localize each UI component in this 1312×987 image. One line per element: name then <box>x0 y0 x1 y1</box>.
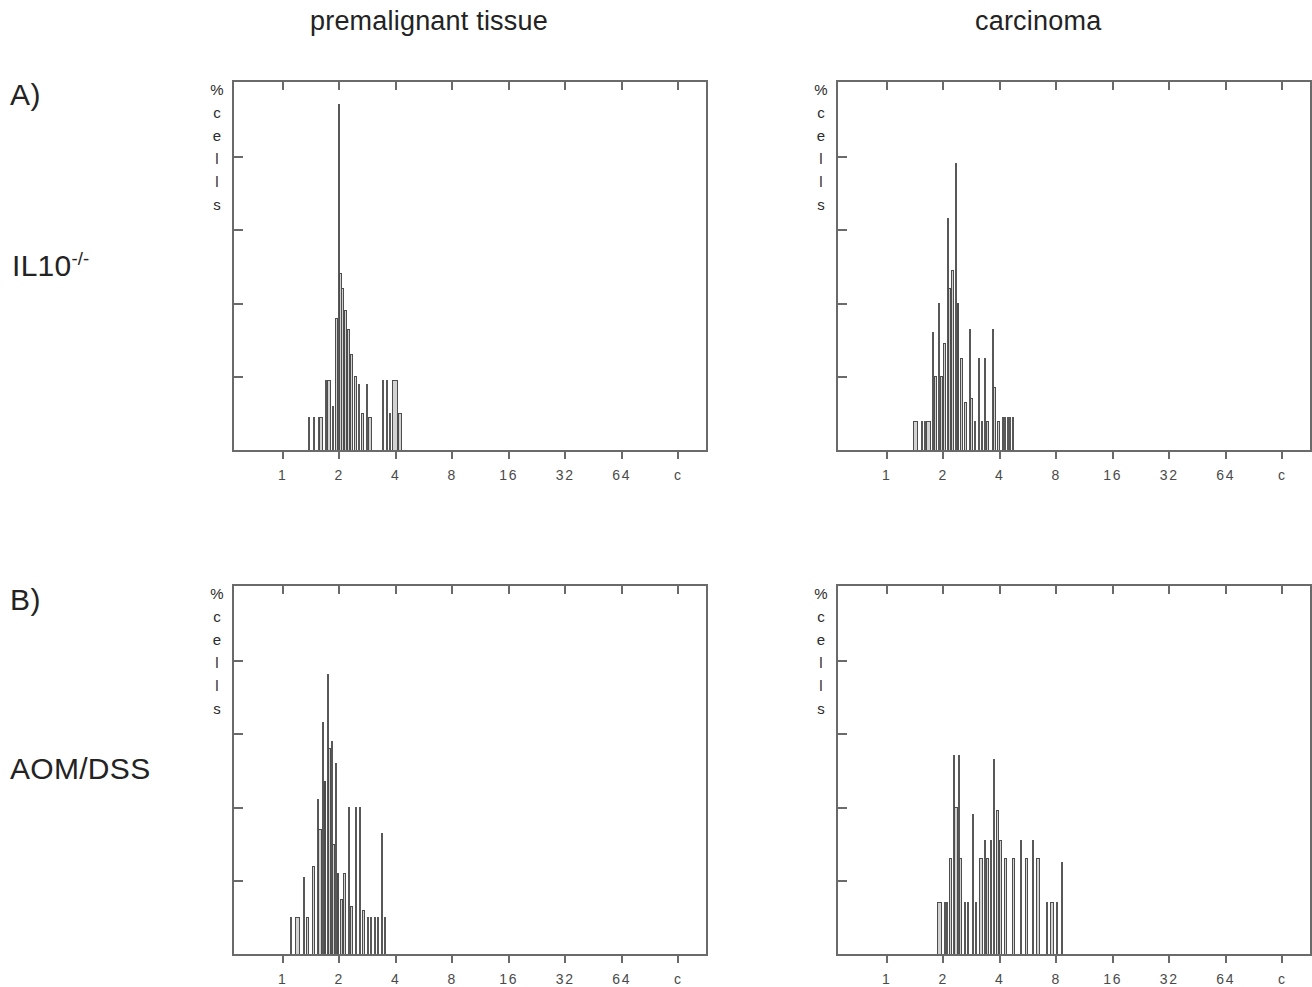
histogram-bar <box>975 902 977 954</box>
x-axis-tick <box>508 450 510 459</box>
histogram-bar <box>944 902 946 954</box>
y-axis-label-char: l <box>819 651 822 674</box>
histogram-bar <box>1009 417 1011 450</box>
row-label-il10-text: IL10 <box>12 249 72 282</box>
histogram-bar <box>926 421 930 450</box>
x-axis-tick-label: 64 <box>612 971 631 987</box>
y-axis-label-char: s <box>213 193 221 216</box>
y-axis-label-char: s <box>817 193 825 216</box>
histogram-bar <box>934 376 937 450</box>
y-axis-label-percent-cells: %cells <box>810 78 832 216</box>
histogram-bar <box>377 917 379 954</box>
histogram-bar <box>964 902 966 954</box>
histogram-bar <box>313 417 315 450</box>
histogram-series <box>838 586 1310 954</box>
x-axis-tick-label: c <box>1278 971 1287 987</box>
y-axis-label-char: s <box>817 697 825 720</box>
panel-letter-a: A) <box>10 78 41 112</box>
x-axis-tick <box>338 450 340 459</box>
x-axis-tick <box>942 450 944 459</box>
histogram-bar <box>389 413 391 450</box>
x-axis-tick <box>1168 954 1170 963</box>
histogram-panel-panel-a-premalignant: 1248163264c <box>232 80 708 452</box>
plot-area <box>838 586 1310 954</box>
x-axis-tick <box>451 450 453 459</box>
row-label-il10: IL10-/- <box>12 248 89 283</box>
histogram-bar <box>949 858 952 954</box>
histogram-bar <box>1012 417 1014 450</box>
histogram-bar <box>319 417 323 450</box>
y-axis-label-char: c <box>213 605 221 628</box>
histogram-bar <box>1046 902 1048 954</box>
x-axis-tick <box>1112 450 1114 459</box>
x-axis-tick-label: 1 <box>278 971 287 987</box>
histogram-bar <box>303 877 305 954</box>
histogram-bar <box>986 421 989 450</box>
x-axis-tick-label: 32 <box>1160 971 1179 987</box>
x-axis-tick <box>621 450 623 459</box>
histogram-bar <box>972 814 974 954</box>
histogram-bar <box>1004 858 1007 954</box>
x-axis-tick-label: 4 <box>995 971 1004 987</box>
plot-area <box>838 82 1310 450</box>
x-axis-tick <box>942 954 944 963</box>
histogram-bar <box>1061 862 1063 954</box>
y-axis-label-char: l <box>215 674 218 697</box>
x-axis-tick-label: 4 <box>391 971 400 987</box>
y-axis-label-char: e <box>817 628 825 651</box>
histogram-bar <box>951 270 954 450</box>
x-axis-tick-label: 8 <box>1052 971 1061 987</box>
histogram-bar <box>974 421 976 450</box>
x-axis-tick <box>1225 954 1227 963</box>
x-axis-tick-label: 8 <box>448 467 457 483</box>
y-axis-label-char: l <box>819 674 822 697</box>
histogram-bar <box>1025 858 1028 954</box>
histogram-bar <box>1050 902 1053 954</box>
histogram-bar <box>921 421 923 450</box>
histogram-bar <box>381 833 383 954</box>
histogram-bar <box>1032 840 1034 954</box>
histogram-bar <box>981 421 983 450</box>
x-axis-tick-label: 16 <box>499 971 518 987</box>
histogram-bar <box>979 858 982 954</box>
y-axis-label-char: l <box>215 170 218 193</box>
histogram-bar <box>367 917 369 954</box>
histogram-panel-panel-a-carcinoma: 1248163264c <box>836 80 1312 452</box>
y-axis-label-char: l <box>215 651 218 674</box>
histogram-bar <box>986 858 989 954</box>
histogram-bar <box>913 421 918 450</box>
x-axis-tick <box>338 954 340 963</box>
x-axis-tick <box>1055 954 1057 963</box>
histogram-series <box>838 82 1310 450</box>
x-axis-tick <box>508 954 510 963</box>
histogram-bar <box>978 358 980 450</box>
histogram-panel-panel-b-premalignant: 1248163264c <box>232 584 708 956</box>
x-axis-tick-label: 16 <box>1103 971 1122 987</box>
x-axis-tick <box>1168 450 1170 459</box>
x-axis-tick <box>282 954 284 963</box>
histogram-bar <box>959 858 962 954</box>
histogram-panel-panel-b-carcinoma: 1248163264c <box>836 584 1312 956</box>
histogram-bar <box>970 398 973 450</box>
histogram-bar <box>382 380 384 450</box>
x-axis-tick <box>395 954 397 963</box>
y-axis-label-char: e <box>213 628 221 651</box>
y-axis-label-char: c <box>817 605 825 628</box>
histogram-bar <box>362 910 365 954</box>
histogram-bar <box>343 873 346 954</box>
plot-area <box>234 82 706 450</box>
histogram-bar <box>306 917 309 954</box>
histogram-bar <box>967 902 969 954</box>
histogram-bar <box>1012 858 1015 954</box>
x-axis-tick-label: 64 <box>1216 971 1235 987</box>
x-axis-tick <box>564 450 566 459</box>
histogram-bar <box>312 866 315 954</box>
x-axis-tick-label: 8 <box>1052 467 1061 483</box>
y-axis-label-char: l <box>215 147 218 170</box>
x-axis-tick-label: 16 <box>499 467 518 483</box>
histogram-bar <box>999 840 1002 954</box>
y-axis-label-char: c <box>213 101 221 124</box>
x-axis-tick <box>1112 954 1114 963</box>
histogram-bar <box>1036 858 1039 954</box>
x-axis-tick <box>395 450 397 459</box>
